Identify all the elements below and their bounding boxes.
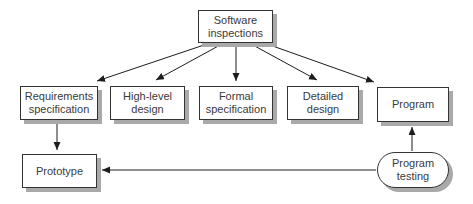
node-software-inspections: Software inspections (198, 10, 273, 43)
arrow-inspections-to-detailed (251, 44, 317, 80)
node-formal-specification: Formal specification (199, 86, 273, 120)
inspection-process-diagram: Software inspections Requirements specif… (0, 0, 473, 204)
arrow-inspections-to-program (267, 44, 374, 82)
node-program-testing: Program testing (377, 152, 449, 188)
node-program: Program (377, 87, 449, 122)
arrow-inspections-to-requirements (97, 44, 207, 81)
node-prototype: Prototype (22, 154, 97, 188)
node-prototype-label: Prototype (36, 165, 83, 178)
node-program-label: Program (392, 98, 434, 111)
node-high-level-design-label: High-level design (123, 90, 172, 116)
node-high-level-design: High-level design (110, 86, 185, 120)
node-detailed-design-label: Detailed design (303, 90, 343, 116)
node-detailed-design: Detailed design (287, 86, 359, 120)
node-requirements-specification: Requirements specification (20, 86, 98, 120)
node-formal-specification-label: Formal specification (206, 90, 267, 116)
node-software-inspections-label: Software inspections (208, 14, 263, 40)
node-requirements-specification-label: Requirements specification (25, 90, 93, 116)
arrow-inspections-to-high-level (156, 44, 222, 80)
node-program-testing-label: Program testing (392, 157, 434, 183)
